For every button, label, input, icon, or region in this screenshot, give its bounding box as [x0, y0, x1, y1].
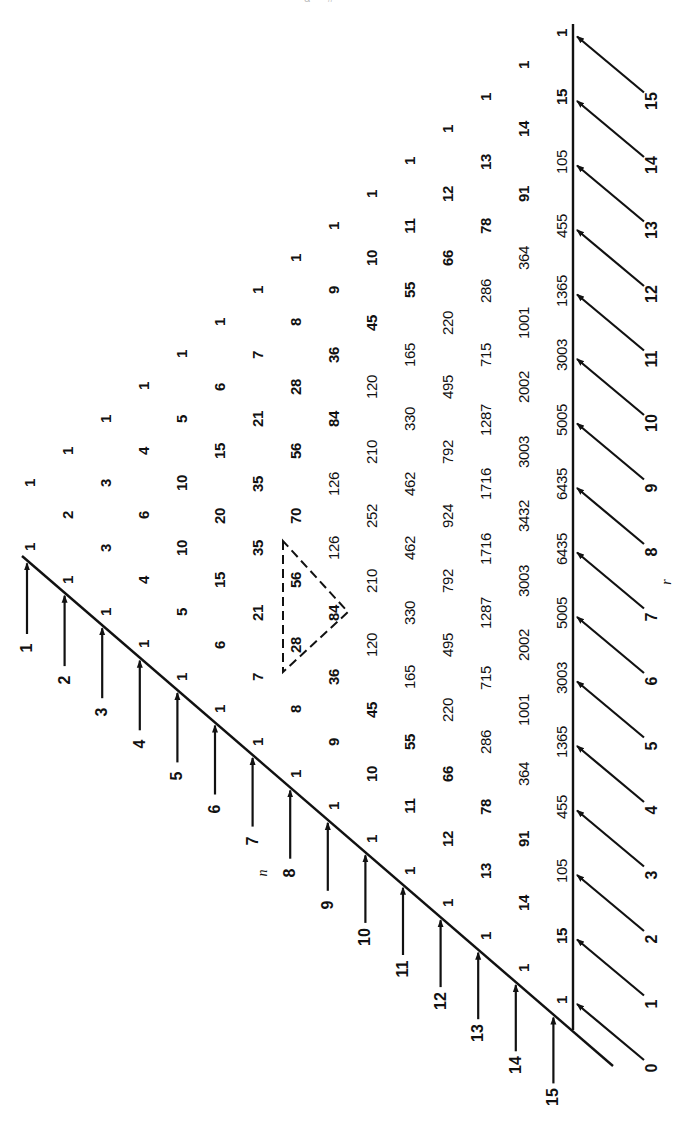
- cell-n11-r11: 1: [400, 131, 420, 191]
- row-label-7: 7: [243, 821, 263, 861]
- cell-n3-r2: 3: [96, 453, 116, 513]
- cell-n10-r4: 210: [362, 551, 382, 611]
- cell-n9-r0: 1: [324, 776, 344, 836]
- cell-n13-r2: 78: [476, 777, 496, 837]
- cell-n15-r14: 15: [552, 67, 572, 127]
- cell-n12-r11: 12: [438, 164, 458, 224]
- cell-n6-r4: 15: [210, 421, 230, 481]
- cell-n9-r2: 36: [324, 647, 344, 707]
- column-arrow-icon: [577, 295, 644, 351]
- cell-n12-r0: 1: [438, 873, 458, 933]
- cell-n9-r5: 126: [324, 454, 344, 514]
- cell-n6-r0: 1: [210, 679, 230, 739]
- cell-n11-r5: 462: [400, 518, 420, 578]
- cell-n7-r7: 1: [248, 260, 268, 320]
- cell-n15-r8: 6435: [552, 454, 572, 514]
- column-arrow-icon: [577, 940, 644, 996]
- cell-n14-r12: 91: [514, 164, 534, 224]
- cell-n13-r11: 78: [476, 196, 496, 256]
- column-label-14: 14: [642, 145, 662, 185]
- cell-n5-r1: 5: [172, 582, 192, 642]
- column-arrow-icon: [577, 811, 644, 867]
- column-label-10: 10: [642, 403, 662, 443]
- cell-n9-r7: 36: [324, 325, 344, 385]
- cell-n11-r6: 462: [400, 454, 420, 514]
- cell-n3-r0: 1: [96, 582, 116, 642]
- cell-n14-r8: 3003: [514, 422, 534, 482]
- cell-n15-r4: 1365: [552, 712, 572, 772]
- cell-n6-r5: 6: [210, 357, 230, 417]
- cell-n8-r8: 1: [286, 228, 306, 288]
- cell-n5-r5: 1: [172, 324, 192, 384]
- cell-n1-r0: 1: [20, 517, 40, 577]
- cell-n4-r0: 1: [134, 614, 154, 674]
- cell-n4-r2: 6: [134, 485, 154, 545]
- cell-n13-r5: 1287: [476, 583, 496, 643]
- cell-n6-r3: 20: [210, 486, 230, 546]
- cell-n14-r1: 14: [514, 873, 534, 933]
- column-arrow-icon: [577, 488, 644, 544]
- cell-n14-r4: 1001: [514, 680, 534, 740]
- cell-n4-r3: 4: [134, 421, 154, 481]
- cell-n7-r1: 7: [248, 647, 268, 707]
- cell-n15-r6: 5005: [552, 583, 572, 643]
- cell-n14-r2: 91: [514, 809, 534, 869]
- axis-label-r: r: [659, 574, 675, 590]
- column-arrow-icon: [577, 875, 644, 931]
- cell-n15-r1: 15: [552, 906, 572, 966]
- cell-n13-r13: 1: [476, 67, 496, 127]
- cell-n9-r3: 84: [324, 583, 344, 643]
- cell-n11-r7: 330: [400, 389, 420, 449]
- row-label-6: 6: [205, 789, 225, 829]
- column-arrow-icon: [577, 166, 644, 222]
- cell-n12-r8: 495: [438, 357, 458, 417]
- cell-n10-r9: 10: [362, 228, 382, 288]
- column-label-6: 6: [642, 661, 662, 701]
- cell-n7-r5: 21: [248, 389, 268, 449]
- row-label-12: 12: [431, 981, 451, 1021]
- cell-n9-r8: 9: [324, 260, 344, 320]
- cell-n12-r2: 66: [438, 744, 458, 804]
- cell-n5-r0: 1: [172, 647, 192, 707]
- axis-label-n: n: [255, 865, 271, 881]
- cell-n15-r13: 105: [552, 132, 572, 192]
- pascal-triangle-diagram: — α — # 11121133114641151010511615201561…: [0, 0, 681, 1128]
- row-label-3: 3: [92, 692, 112, 732]
- column-label-0: 0: [642, 1048, 662, 1088]
- cell-n12-r7: 792: [438, 422, 458, 482]
- cell-n11-r3: 165: [400, 647, 420, 707]
- row-label-1: 1: [17, 628, 37, 668]
- cell-n11-r8: 165: [400, 325, 420, 385]
- cell-n8-r7: 8: [286, 292, 306, 352]
- cell-n8-r2: 28: [286, 615, 306, 675]
- cell-n15-r12: 455: [552, 196, 572, 256]
- row-label-15: 15: [543, 1077, 563, 1117]
- row-label-10: 10: [355, 917, 375, 957]
- cell-n12-r1: 12: [438, 809, 458, 869]
- cell-n8-r5: 56: [286, 421, 306, 481]
- column-label-11: 11: [642, 339, 662, 379]
- cell-n4-r1: 4: [134, 550, 154, 610]
- cell-n8-r4: 70: [286, 486, 306, 546]
- cell-n8-r3: 56: [286, 550, 306, 610]
- cell-n13-r4: 715: [476, 648, 496, 708]
- row-label-9: 9: [318, 885, 338, 925]
- cell-n12-r5: 792: [438, 551, 458, 611]
- cell-n3-r3: 1: [96, 389, 116, 449]
- column-label-5: 5: [642, 726, 662, 766]
- cell-n12-r6: 924: [438, 486, 458, 546]
- cell-n14-r3: 364: [514, 744, 534, 804]
- cell-n13-r3: 286: [476, 712, 496, 772]
- column-arrows: [577, 37, 644, 1061]
- cell-n8-r6: 28: [286, 357, 306, 417]
- cell-n15-r0: 1: [552, 970, 572, 1030]
- column-label-15: 15: [642, 81, 662, 121]
- column-label-12: 12: [642, 274, 662, 314]
- cell-n14-r9: 2002: [514, 357, 534, 417]
- column-arrow-icon: [577, 101, 644, 157]
- cell-n3-r1: 3: [96, 518, 116, 578]
- cell-n6-r2: 15: [210, 550, 230, 610]
- column-arrow-icon: [577, 746, 644, 802]
- cell-n12-r3: 220: [438, 680, 458, 740]
- cell-n8-r1: 8: [286, 679, 306, 739]
